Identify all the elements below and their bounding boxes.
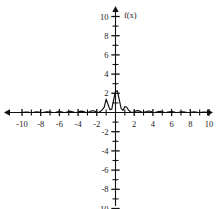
y-axis-name: f(x) [124,10,137,20]
y-axis-name-label: f(x) [124,10,137,20]
cartesian-plot: -10-8-6-4-2246810 108642-2-4-6-8-10 f(x) [0,0,217,209]
x-tick-label: 10 [205,119,214,129]
function-plot-figure: -10-8-6-4-2246810 108642-2-4-6-8-10 f(x) [0,0,217,209]
y-tick-label: -8 [101,184,108,194]
x-tick-label: -10 [16,119,27,129]
y-tick-label: -10 [97,204,108,209]
y-tick-label: -6 [101,165,108,175]
x-tick-label: 6 [169,119,173,129]
y-tick-label: -2 [101,127,108,137]
x-tick-label: -6 [56,119,63,129]
y-tick-label: 10 [100,12,109,22]
x-tick-label: -2 [93,119,100,129]
y-tick-label: 6 [104,50,108,60]
x-tick-label: -8 [37,119,44,129]
x-tick-label: -4 [75,119,83,129]
x-tick-label: 4 [151,119,156,129]
x-tick-label: 2 [132,119,136,129]
y-tick-label: 2 [104,88,108,98]
y-tick-label: 8 [104,31,108,41]
y-tick-label: -4 [101,146,109,156]
x-tick-label: 8 [188,119,192,129]
